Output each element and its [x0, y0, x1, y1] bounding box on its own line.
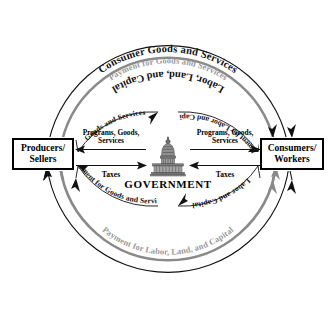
- cf-left-taxes-label: Taxes: [74, 171, 148, 179]
- government-label: GOVERNMENT: [0, 178, 336, 190]
- center-flow-left: Programs, Goods, Services Taxes: [74, 129, 148, 180]
- cf-right-arrow-inbound: [188, 161, 262, 170]
- entity-box-consumers-workers[interactable]: Consumers/ Workers: [260, 138, 324, 170]
- cf-right-taxes-label: Taxes: [188, 171, 262, 179]
- cf-left-arrow-outbound: [74, 145, 148, 154]
- entity-box-producers-sellers[interactable]: Producers/ Sellers: [12, 138, 74, 170]
- producers-line-1: Producers/: [16, 143, 70, 154]
- cf-left-programs-line2: Services: [74, 137, 148, 145]
- arc-label-payment-labor-land-capital: Payment for Labor, Land, and Capital: [101, 225, 236, 257]
- cf-right-programs-line2: Services: [188, 137, 262, 145]
- cf-left-arrow-inbound: [74, 161, 148, 170]
- consumers-line-1: Consumers/: [264, 143, 320, 154]
- capitol-building-icon: [148, 136, 188, 178]
- consumers-line-2: Workers: [264, 154, 320, 165]
- cf-right-arrow-outbound: [188, 145, 262, 154]
- center-flow-right: Programs, Goods, Services Taxes: [188, 129, 262, 180]
- circular-flow-diagram: Consumer Goods and Services Payment for …: [0, 0, 336, 317]
- producers-line-2: Sellers: [16, 154, 70, 165]
